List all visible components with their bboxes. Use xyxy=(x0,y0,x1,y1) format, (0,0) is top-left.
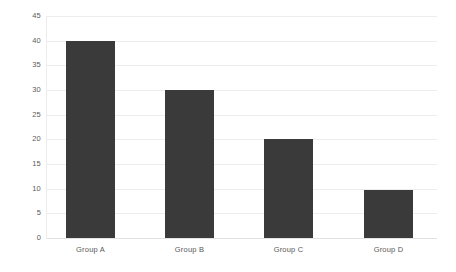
x-axis-category-labels: Group A Group B Group C Group D xyxy=(0,0,456,272)
bar-chart: 45 40 35 30 25 20 15 10 5 0 Group A Grou… xyxy=(0,0,456,272)
x-tick-label-group-b: Group B xyxy=(155,245,224,254)
x-tick-label-group-c: Group C xyxy=(254,245,323,254)
x-tick-label-group-a: Group A xyxy=(56,245,125,254)
x-tick-label-group-d: Group D xyxy=(354,245,423,254)
